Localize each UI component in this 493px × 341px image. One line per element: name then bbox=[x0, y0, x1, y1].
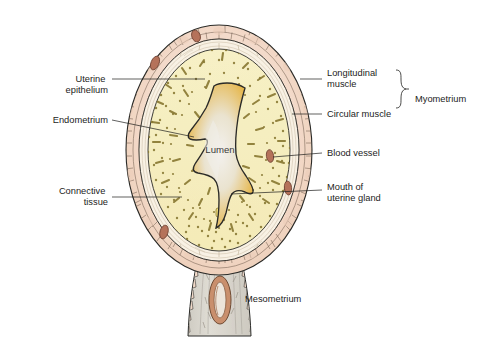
label-mesometrium: Mesometrium bbox=[245, 294, 302, 304]
label-circular-muscle: Circular muscle bbox=[327, 109, 391, 119]
lumen-label: Lumen bbox=[205, 144, 234, 155]
uterus-diagram: Lumen Uterine bbox=[0, 0, 493, 341]
myometrium-brace bbox=[396, 70, 409, 108]
label-group-bottom: Mesometrium bbox=[245, 294, 302, 304]
label-group-right: Longitudinal muscle Circular muscle Bloo… bbox=[327, 68, 466, 203]
label-mouth-of-uterine-gland: Mouth of uterine gland bbox=[327, 182, 381, 203]
label-endometrium: Endometrium bbox=[53, 115, 109, 125]
label-myometrium: Myometrium bbox=[415, 94, 466, 104]
label-blood-vessel: Blood vessel bbox=[327, 148, 380, 158]
mesometrium-blood-vessel bbox=[209, 276, 231, 324]
label-longitudinal-muscle: Longitudinal muscle bbox=[327, 68, 380, 89]
label-uterine-epithelium: Uterine epithelium bbox=[66, 74, 109, 95]
label-connective-tissue: Connective tissue bbox=[59, 186, 108, 207]
diagram-canvas: Lumen Uterine bbox=[0, 0, 493, 341]
label-group-left: Uterine epithelium Endometrium Connectiv… bbox=[53, 74, 109, 207]
